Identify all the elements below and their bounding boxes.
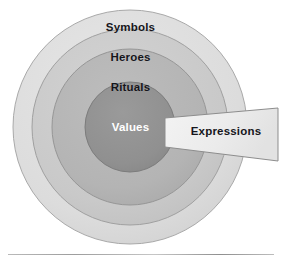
ring-label-heroes: Heroes (0, 51, 261, 63)
ring-label-rituals: Rituals (0, 81, 261, 93)
expressions-callout-label: Expressions (176, 125, 276, 137)
culture-onion-figure: Symbols Heroes Rituals Values Expression… (0, 0, 281, 265)
ring-label-symbols: Symbols (0, 21, 261, 33)
figure-bottom-rule (8, 254, 274, 255)
